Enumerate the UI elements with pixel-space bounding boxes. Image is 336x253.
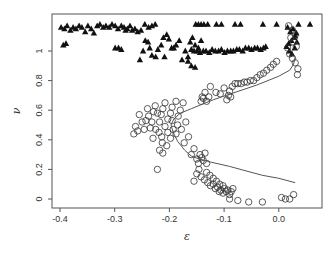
triangle-point: [138, 27, 144, 33]
triangle-point: [158, 42, 164, 48]
triangle-point: [152, 21, 158, 27]
circle-point: [235, 197, 241, 203]
x-tick-label: -0.1: [216, 214, 232, 224]
circle-point: [213, 89, 219, 95]
circle-point: [195, 160, 201, 166]
triangle-point: [198, 37, 204, 43]
triangle-point: [295, 21, 301, 27]
triangle-point: [307, 21, 313, 27]
triangle-point: [189, 34, 195, 40]
triangle-point: [260, 21, 266, 27]
circle-point: [178, 126, 184, 132]
circle-point: [160, 106, 166, 112]
circle-point: [154, 166, 160, 172]
triangle-point: [218, 21, 224, 27]
circle-point: [175, 113, 181, 119]
circle-point: [164, 143, 170, 149]
circle-point: [191, 178, 197, 184]
circle-point: [180, 100, 186, 106]
circle-point: [159, 140, 165, 146]
circle-point: [136, 111, 142, 117]
circle-point: [139, 119, 145, 125]
triangle-point: [161, 54, 167, 60]
circle-point: [173, 98, 179, 104]
triangle-point: [140, 48, 146, 54]
triangle-point: [179, 57, 185, 63]
circle-point: [150, 135, 156, 141]
circle-point: [287, 196, 293, 202]
triangle-point: [137, 57, 143, 63]
circle-point: [167, 110, 173, 116]
circle-point: [174, 122, 180, 128]
circle-point: [259, 199, 265, 205]
y-tick-label: 0.2: [34, 163, 44, 176]
y-tick-label: 0: [34, 196, 44, 201]
circle-point: [162, 100, 168, 106]
triangle-point: [273, 21, 279, 27]
circle-point: [156, 119, 162, 125]
circle-point: [191, 146, 197, 152]
x-tick-label: -0.2: [162, 214, 178, 224]
triangle-point: [213, 21, 219, 27]
y-tick-label: 0.4: [34, 134, 44, 147]
circle-point: [294, 72, 300, 78]
triangle-point: [237, 21, 243, 27]
x-axis: -0.4-0.3-0.2-0.10.0: [52, 208, 285, 224]
circle-point: [165, 116, 171, 122]
circle-point: [154, 110, 160, 116]
y-tick-label: 0.6: [34, 104, 44, 117]
y-axis-title: ν: [10, 107, 23, 114]
circle-point: [295, 66, 301, 72]
scatter-chart: -0.4-0.3-0.2-0.10.0 00.20.40.60.81 ε ν: [0, 0, 336, 253]
x-tick-label: -0.4: [52, 214, 68, 224]
y-axis: 00.20.40.60.81: [34, 48, 52, 201]
circle-point: [167, 135, 173, 141]
circle-point: [169, 104, 175, 110]
circle-point: [144, 106, 150, 112]
marks-layer: [58, 21, 313, 205]
circle-point: [185, 134, 191, 140]
circle-point: [226, 196, 232, 202]
circle-point: [158, 111, 164, 117]
triangle-point: [64, 22, 70, 28]
circle-point: [290, 191, 296, 197]
circle-point: [246, 199, 252, 205]
x-tick-label: -0.3: [107, 214, 123, 224]
circle-point: [152, 103, 158, 109]
y-tick-label: 1: [34, 48, 44, 53]
triangle-point: [142, 21, 148, 27]
y-tick-label: 0.8: [34, 74, 44, 87]
circle-point: [183, 119, 189, 125]
triangle-point: [176, 37, 182, 43]
circle-point: [278, 194, 284, 200]
x-axis-title: ε: [184, 230, 190, 243]
circle-point: [149, 119, 155, 125]
x-tick-label: 0.0: [273, 214, 286, 224]
circle-point: [162, 123, 168, 129]
triangle-point: [182, 48, 188, 54]
fit-line: [171, 57, 295, 183]
circle-point: [207, 83, 213, 89]
triangle-point: [147, 45, 153, 51]
circle-point: [221, 85, 227, 91]
circle-point: [141, 126, 147, 132]
triangle-point: [232, 21, 238, 27]
circle-point: [181, 140, 187, 146]
